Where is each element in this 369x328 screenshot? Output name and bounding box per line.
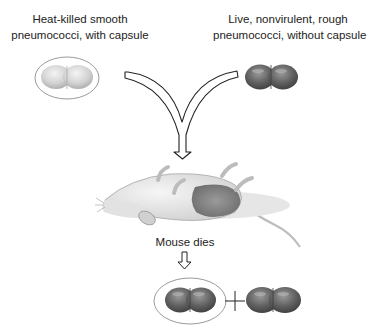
smooth-pneumococci-capsule [35,57,99,99]
rough-label-line2: pneumococci, without capsule [213,27,363,43]
smooth-pneumococci-label: Heat-killed smooth pneumococci, with cap… [10,11,150,43]
rough-label-line1: Live, nonvirulent, rough [213,11,363,27]
mouse-dies-label: Mouse dies [140,234,230,250]
result-smooth-pneumococci-capsule [154,278,226,324]
result-rough-pneumococci-no-capsule [246,287,301,313]
rough-pneumococci-no-capsule [245,65,298,90]
down-arrow [178,252,191,269]
diagram-canvas [0,0,369,328]
smooth-label-line2: pneumococci, with capsule [10,27,150,43]
smooth-label-line1: Heat-killed smooth [10,11,150,27]
rough-pneumococci-label: Live, nonvirulent, rough pneumococci, wi… [213,11,363,43]
plus-icon [225,291,245,311]
merge-arrow [125,71,238,159]
